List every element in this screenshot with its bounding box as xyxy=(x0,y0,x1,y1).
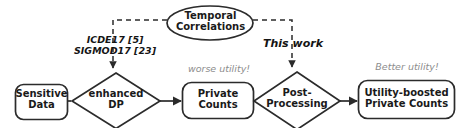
node-temporal-correlations-shape xyxy=(167,6,253,40)
node-enhanced-dp-shape xyxy=(72,73,160,128)
node-post-processing-shape xyxy=(254,72,340,128)
annotation-worse-utility: worse utility! xyxy=(183,64,255,75)
annotation-this-work: This work xyxy=(258,38,328,50)
annotation-citations: ICDE17 [5] SIGMOD17 [23] xyxy=(55,35,175,56)
node-utility-boosted-shape xyxy=(359,81,455,119)
node-sensitive-data-shape xyxy=(16,85,68,120)
flowchart-figure: Sensitive Data enhanced DP Private Count… xyxy=(0,0,459,128)
node-private-counts-shape xyxy=(183,83,254,119)
annotation-better-utility: Better utility! xyxy=(360,62,454,73)
annotation-citation-sigmod17: SIGMOD17 [23] xyxy=(55,46,175,57)
